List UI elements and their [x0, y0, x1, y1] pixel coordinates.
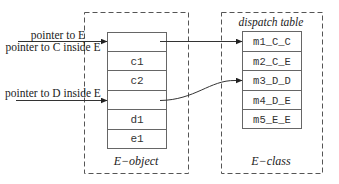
slot-label: c2	[130, 75, 143, 87]
e-object-caption: E−object	[113, 154, 159, 168]
dispatch-entry: m4_D_E	[253, 95, 291, 107]
dispatch-entry: m5_E_E	[253, 114, 291, 126]
e-class-caption: E−class	[250, 154, 291, 168]
dispatch-entry: m1_C_C	[253, 36, 291, 48]
pointer-label-c: pointer to C inside E	[5, 41, 100, 54]
e-object-slots: c1 c2 d1 e1	[108, 33, 167, 149]
dispatch-table: m1_C_C m2_C_E m3_D_D m4_D_E m5_E_E	[243, 32, 302, 129]
dispatch-table-title: dispatch table	[239, 16, 304, 29]
pointer-label-d: pointer to D inside E	[5, 87, 101, 100]
dispatch-entry: m3_D_D	[253, 75, 291, 87]
slot-label: c1	[130, 56, 144, 68]
diagram-canvas: c1 c2 d1 e1 dispatch table m1_C_C m2_C_E…	[0, 0, 339, 184]
vptr-link-d	[160, 80, 242, 100]
dispatch-entry: m2_C_E	[253, 56, 291, 68]
slot-label: e1	[130, 133, 144, 145]
slot-label: d1	[130, 114, 144, 126]
